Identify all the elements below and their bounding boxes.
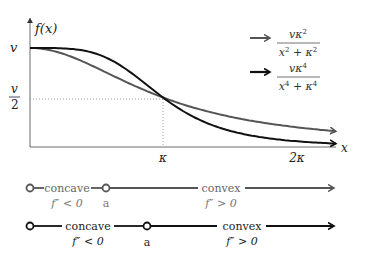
concave-label: concave: [65, 220, 110, 233]
inflection-point-icon: [103, 185, 110, 192]
legend-numerator: vκ2: [289, 28, 307, 41]
convex-condition: f″ > 0: [225, 235, 257, 248]
legend-item-power-2: vκ2 x2 + κ2: [250, 28, 320, 59]
x-tick-kappa: κ: [158, 151, 167, 165]
legend-item-power-4: vκ4 x4 + κ4: [250, 62, 320, 93]
convexity-row-power-4: concave convex f″ < 0 a f″ > 0: [27, 220, 335, 249]
inflection-label: a: [103, 197, 110, 210]
start-point-icon: [27, 185, 34, 192]
concave-condition: f″ < 0: [50, 197, 82, 210]
convexity-row-power-2: concave convex f″ < 0 a f″ > 0: [27, 182, 335, 210]
y-tick-half-den: 2: [11, 98, 19, 112]
start-point-icon: [27, 223, 34, 230]
inflection-point-icon: [144, 223, 151, 230]
inflection-label: a: [144, 236, 151, 249]
legend-denominator: x2 + κ2: [279, 46, 318, 59]
concave-label: concave: [44, 182, 89, 195]
legend-numerator: vκ4: [289, 62, 307, 75]
concave-condition: f″ < 0: [71, 235, 103, 248]
x-tick-2kappa: 2κ: [288, 151, 305, 165]
convex-label: convex: [202, 182, 242, 195]
legend-denominator: x4 + κ4: [279, 80, 318, 93]
y-axis-label: f(x): [34, 21, 57, 36]
y-tick-half-num: v: [11, 82, 18, 96]
diagram: f(x) x v v 2 κ 2κ vκ2 x2 + κ2 vκ4 x4 + κ…: [0, 0, 367, 261]
x-axis-label: x: [341, 141, 348, 155]
convex-condition: f″ > 0: [204, 197, 236, 210]
y-tick-v: v: [10, 40, 18, 55]
convex-label: convex: [223, 220, 263, 233]
